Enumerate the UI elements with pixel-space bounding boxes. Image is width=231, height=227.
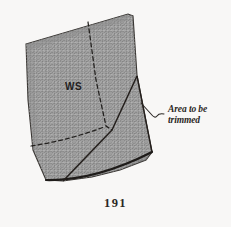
figure-caption-number: 191 bbox=[0, 196, 231, 211]
annotation-label-line2: trimmed bbox=[168, 115, 200, 126]
annotation-label-line1: Area to be bbox=[168, 104, 207, 115]
piece-label-ws: WS bbox=[65, 81, 82, 92]
figure-illustration: WS Area to be trimmed 191 bbox=[0, 0, 231, 227]
